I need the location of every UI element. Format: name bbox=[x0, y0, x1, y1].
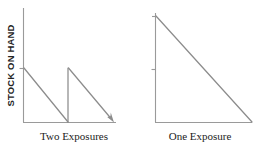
panel-two-exposures bbox=[20, 8, 117, 123]
panel-caption-one-exposure: One Exposure bbox=[145, 130, 253, 142]
panel-caption-two-exposures: Two Exposures bbox=[14, 130, 134, 142]
depletion-segment-2-panel1 bbox=[69, 68, 112, 119]
depletion-segment-panel2 bbox=[156, 16, 252, 122]
inventory-depletion-figure: STOCK ON HAND Two Exposures One Exposure bbox=[0, 0, 253, 152]
depletion-segment-1-panel1 bbox=[24, 68, 68, 122]
panel-one-exposure bbox=[152, 13, 253, 123]
depletion-arrowhead-panel1 bbox=[107, 112, 114, 122]
